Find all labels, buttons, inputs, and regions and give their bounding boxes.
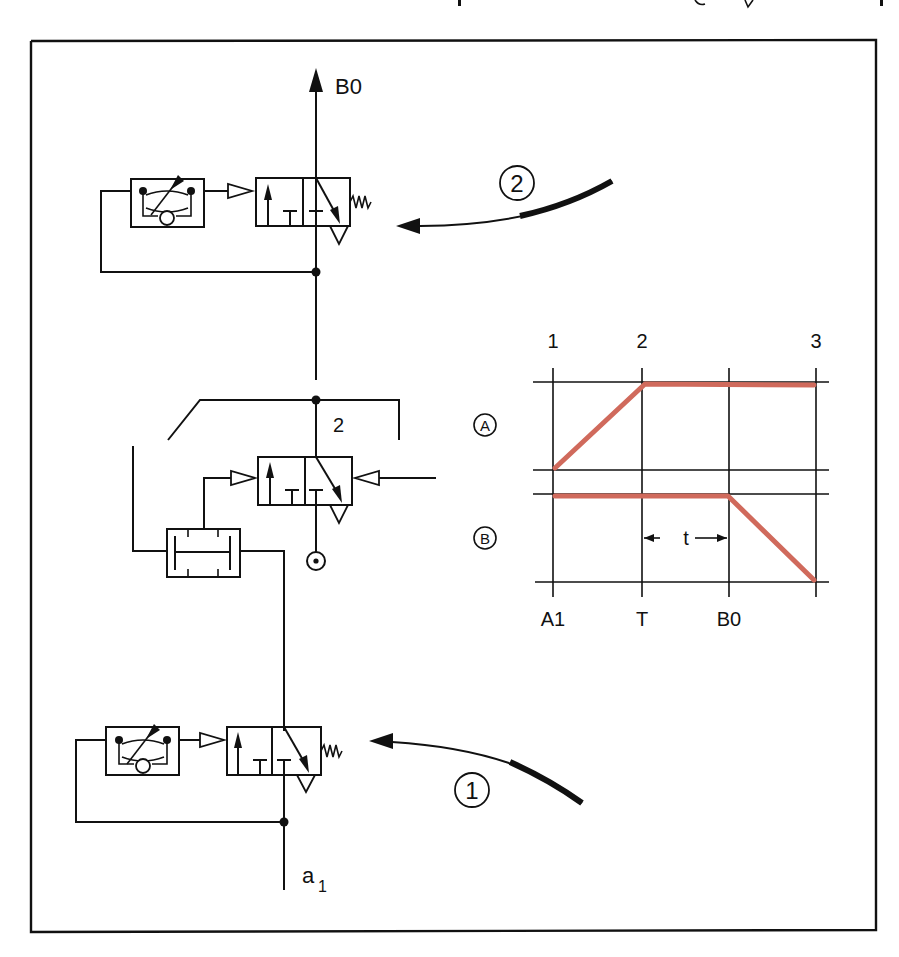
throttle-check-valve-lower <box>106 724 179 775</box>
bottom-label-t: T <box>636 608 648 630</box>
series-a-curve <box>555 384 814 468</box>
step-label-1: 1 <box>547 330 558 352</box>
top-caption-fragment <box>458 0 883 7</box>
callout-label-1: 1 <box>465 777 478 804</box>
pilot-triangle-middle-right <box>355 471 379 485</box>
step-label-2: 2 <box>636 330 647 352</box>
shuttle-input-left <box>133 446 167 551</box>
valve-3-2-middle <box>258 457 352 523</box>
delay-label-t: t <box>683 527 689 549</box>
frame-border <box>31 40 876 932</box>
label-input-sub-1: 1 <box>318 878 327 895</box>
spring-icon-upper <box>350 196 371 208</box>
shuttle-input-right <box>240 551 284 731</box>
pilot-triangle-lower <box>200 733 224 747</box>
delay-dimension-arrow: t <box>644 527 727 549</box>
displacement-step-chart: 1 2 3 A B t A1 T B0 <box>474 330 829 630</box>
spring-icon-lower <box>321 745 342 757</box>
row-label-a: A <box>480 417 490 434</box>
step-label-3: 3 <box>810 330 821 352</box>
junction-dot-upper <box>312 268 321 277</box>
callout-arrow-2: 2 <box>396 166 612 234</box>
label-input-a: a <box>302 863 315 888</box>
pilot-triangle-middle-left <box>231 471 255 485</box>
label-output-b0: B0 <box>335 74 362 99</box>
output-arrow-icon <box>309 68 323 92</box>
callout-arrow-1: 1 <box>369 733 582 807</box>
pneumatic-circuit-diagram: B0 2 2 <box>0 0 899 957</box>
bottom-label-b0: B0 <box>717 608 741 630</box>
label-port-2: 2 <box>333 414 344 436</box>
throttle-check-valve-upper <box>131 175 204 227</box>
bottom-label-a1: A1 <box>541 608 565 630</box>
valve-3-2-upper <box>256 178 371 244</box>
feedback-line-upper <box>101 191 316 272</box>
branch-line-middle <box>168 400 399 440</box>
row-label-b: B <box>480 530 490 547</box>
pilot-triangle-upper <box>228 184 252 198</box>
callout-label-2: 2 <box>510 170 523 197</box>
shuttle-valve <box>167 529 240 577</box>
